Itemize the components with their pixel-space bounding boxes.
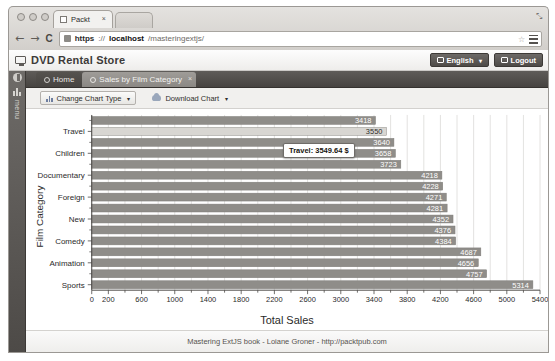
chart-y-category-label: New	[69, 215, 85, 224]
url-scheme: https	[75, 34, 95, 43]
chart-x-tick-label: 3000	[332, 295, 349, 304]
chart-bar-value-label: 4228	[422, 182, 439, 191]
chevron-down-icon: ▾	[479, 57, 482, 64]
browser-chrome: Packt × ← → C https://localhost/masterin…	[8, 6, 549, 50]
download-chart-label: Download Chart	[165, 94, 219, 103]
url-separator: ://	[98, 34, 105, 43]
chart-bar[interactable]	[92, 127, 387, 135]
chart-bar-value-label: 3640	[373, 138, 390, 147]
chart-x-tick-label: 200	[102, 295, 114, 304]
sidebar[interactable]: menu	[9, 71, 26, 352]
forward-icon[interactable]: →	[30, 32, 39, 45]
app-tabbar: Home Sales by Film Category ×	[26, 71, 548, 88]
chart-x-tick-label: 3400	[366, 295, 383, 304]
browser-tab-label: Packt	[71, 15, 90, 24]
chart-bar[interactable]	[92, 270, 487, 278]
chart-bar[interactable]	[92, 182, 443, 190]
logout-icon	[501, 57, 508, 63]
chart-y-category-label: Travel	[63, 127, 85, 136]
close-tab-icon[interactable]: ×	[188, 75, 192, 82]
chart-bar-value-label: 4384	[435, 237, 452, 246]
browser-tab[interactable]: Packt ×	[53, 10, 113, 28]
browser-tabstrip: Packt ×	[53, 9, 153, 27]
chart-bar-value-label: 4376	[434, 226, 451, 235]
chart-bar-value-label: 3418	[355, 116, 372, 125]
screenshot-root: Packt × ← → C https://localhost/masterin…	[0, 0, 555, 361]
chart-bar-value-label: 4281	[427, 204, 444, 213]
tab-sales-by-film-category[interactable]: Sales by Film Category ×	[82, 72, 196, 87]
download-cloud-icon	[152, 95, 161, 101]
chevron-down-icon: ▾	[127, 95, 130, 102]
chart-bar[interactable]	[92, 204, 447, 212]
address-bar[interactable]: https://localhost/masteringextjs/ ☆	[59, 31, 542, 47]
new-tab-button[interactable]	[115, 12, 153, 28]
chart-bar[interactable]	[92, 237, 456, 245]
download-chart-button[interactable]: Download Chart ▾	[146, 91, 234, 105]
chart-x-tick-label: 1400	[200, 295, 217, 304]
chart-bar-value-label: 3723	[380, 160, 397, 169]
footer-text: Mastering ExtJS book - Loiane Groner - h…	[187, 337, 387, 346]
chart-x-tick-label: 4600	[465, 295, 482, 304]
change-chart-type-button[interactable]: Change Chart Type ▾	[40, 91, 136, 105]
chart-tab-icon	[90, 77, 96, 83]
tab-home[interactable]: Home	[36, 72, 82, 87]
window-traffic-lights[interactable]	[17, 13, 49, 21]
close-tab-icon[interactable]: ×	[102, 15, 106, 22]
bar-chart-icon	[46, 95, 53, 102]
chart-bar[interactable]	[92, 281, 533, 289]
chart-bar-value-label: 4687	[460, 248, 477, 257]
browser-nav-row: ← → C https://localhost/masteringextjs/ …	[9, 27, 548, 50]
chart-panel[interactable]: 3418355036403658372342184228427142814352…	[26, 109, 548, 330]
browser-menu-icon[interactable]	[529, 35, 538, 44]
monitor-icon	[15, 56, 26, 64]
app-header: DVD Rental Store English ▾ Logout	[9, 50, 548, 71]
reload-icon[interactable]: C	[45, 33, 52, 44]
app-footer: Mastering ExtJS book - Loiane Groner - h…	[26, 330, 548, 352]
chart-bar-value-label: 4656	[458, 259, 475, 268]
chart-x-tick-labels: 0200600100014001800220026003000340038004…	[90, 295, 548, 304]
chart-bar-value-label: 4218	[421, 171, 438, 180]
minimize-window-icon[interactable]	[29, 13, 37, 21]
back-icon[interactable]: ←	[15, 32, 24, 45]
chart-bar[interactable]	[92, 160, 401, 168]
chart-icon[interactable]	[9, 84, 25, 98]
sidebar-label: menu	[14, 100, 21, 120]
bookmark-star-icon[interactable]: ☆	[518, 35, 525, 44]
close-window-icon[interactable]	[17, 13, 25, 21]
collapse-icon	[13, 73, 22, 82]
chart-x-tick-label: 1800	[233, 295, 250, 304]
chart-x-tick-label: 2200	[266, 295, 283, 304]
chart-y-category-label: Documentary	[37, 171, 84, 180]
language-button[interactable]: English ▾	[430, 53, 489, 67]
chart-y-category-label: Animation	[49, 259, 84, 268]
chart-x-tick-label: 3800	[399, 295, 416, 304]
chart-x-tick-label: 1000	[166, 295, 183, 304]
logout-button[interactable]: Logout	[494, 53, 543, 67]
sidebar-toggle[interactable]	[9, 71, 25, 84]
chart-bar[interactable]	[92, 215, 453, 223]
chart-bar[interactable]	[92, 248, 481, 256]
chart-bar[interactable]	[92, 117, 376, 125]
lock-icon	[64, 35, 71, 42]
chart-bar[interactable]	[92, 259, 479, 267]
chart-x-tick-label: 5000	[499, 295, 516, 304]
tab-sales-by-film-category-label: Sales by Film Category	[99, 75, 182, 84]
chart-y-axis-title: Film Category	[34, 186, 45, 248]
chart-bar-value-label: 4271	[426, 193, 443, 202]
header-buttons: English ▾ Logout	[430, 53, 544, 67]
chart-x-tick-label: 600	[135, 295, 147, 304]
favicon-icon	[60, 16, 67, 23]
logout-button-label: Logout	[511, 56, 536, 65]
change-chart-type-label: Change Chart Type	[57, 94, 122, 103]
maximize-window-icon[interactable]	[41, 13, 49, 21]
chart-bar[interactable]	[92, 171, 442, 179]
expand-window-icon[interactable]: ⤡	[536, 12, 542, 22]
chart-y-category-label: Foreign	[58, 193, 85, 202]
chart-bar[interactable]	[92, 226, 455, 234]
chart-bar[interactable]	[92, 193, 447, 201]
chart-x-tick-label: 2600	[299, 295, 316, 304]
chart-x-tick-label: 4200	[432, 295, 449, 304]
chart-y-category-label: Sports	[62, 281, 85, 290]
application-window: DVD Rental Store English ▾ Logout menu	[8, 50, 549, 353]
tab-home-label: Home	[53, 75, 74, 84]
